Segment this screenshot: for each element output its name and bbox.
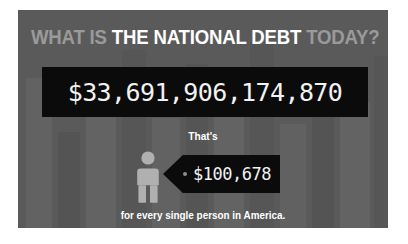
thats-label: That's: [33, 130, 373, 142]
infographic-panel: WHAT IS THE NATIONAL DEBT TODAY? $33,691…: [18, 10, 388, 228]
footer-caption: for every single person in America.: [37, 209, 370, 221]
person-icon: [135, 151, 161, 207]
national-debt-display: $33,691,906,174,870: [42, 67, 368, 117]
headline-prefix: WHAT IS: [31, 26, 112, 48]
callout-bullet-icon: [183, 172, 187, 176]
per-person-row: $100,678: [18, 151, 388, 206]
headline-suffix: TODAY?: [301, 26, 379, 48]
page-title: WHAT IS THE NATIONAL DEBT TODAY?: [31, 27, 375, 47]
headline-emphasis: THE NATIONAL DEBT: [112, 26, 301, 48]
per-person-callout: $100,678: [163, 155, 280, 193]
infographic-root: WHAT IS THE NATIONAL DEBT TODAY? $33,691…: [0, 0, 408, 244]
national-debt-value: $33,691,906,174,870: [68, 78, 343, 107]
per-person-amount: $100,678: [193, 164, 271, 184]
